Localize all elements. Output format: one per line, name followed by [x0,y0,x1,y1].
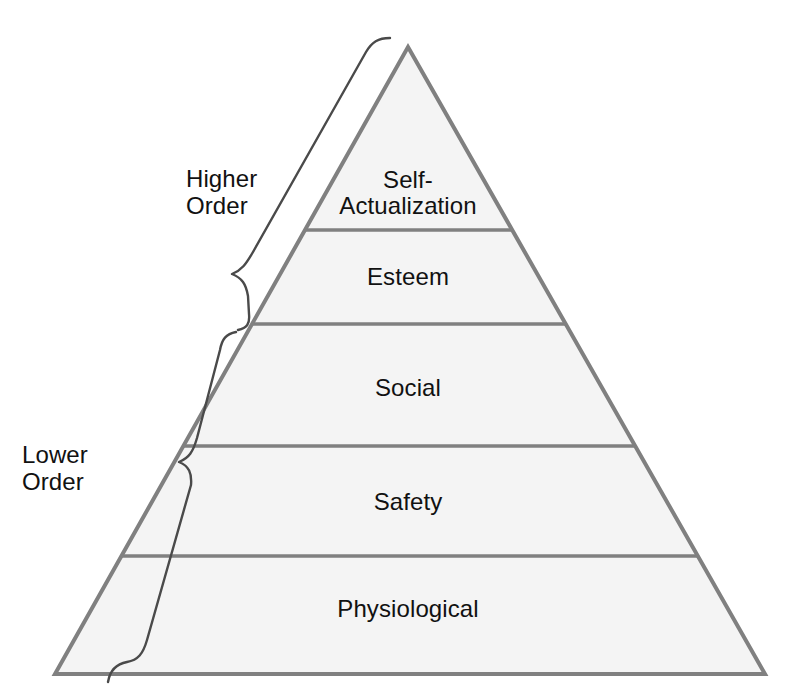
pyramid-graphic [0,0,785,696]
pyramid-body [55,47,765,674]
hierarchy-of-needs-diagram: Self- Actualization Esteem Social Safety… [0,0,785,696]
group-label-higher-order: Higher Order [186,166,306,220]
group-label-lower-order: Lower Order [22,442,152,496]
